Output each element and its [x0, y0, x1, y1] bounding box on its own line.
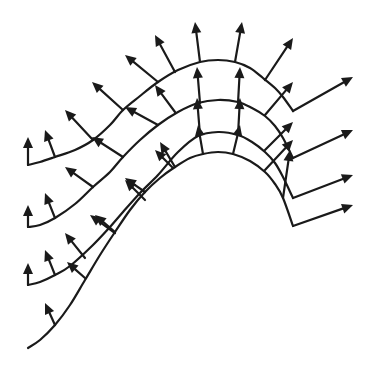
arrowhead-icon: [191, 22, 201, 34]
arrow-shaft: [233, 136, 237, 154]
arrow-shaft: [101, 143, 123, 157]
arrowhead-icon: [235, 22, 245, 34]
normal-vector: [233, 125, 243, 154]
arrow-shaft: [49, 260, 55, 275]
arrow-shaft: [235, 33, 240, 62]
normal-vector: [23, 205, 33, 227]
arrow-shaft: [265, 90, 286, 115]
curves-group: [28, 60, 293, 348]
normal-vector: [155, 35, 175, 72]
arrowhead-icon: [234, 67, 244, 78]
curve-4-exit-arrow: [293, 204, 353, 226]
normal-vectors-group: [23, 22, 353, 325]
normal-vector: [191, 22, 201, 62]
arrowhead-icon: [283, 38, 293, 50]
diagram-canvas: [0, 0, 374, 372]
arrow-shaft: [198, 78, 200, 103]
arrow-shaft: [50, 313, 55, 325]
normal-vector: [45, 303, 55, 325]
normal-vector: [195, 125, 205, 154]
arrowhead-icon: [65, 167, 77, 178]
arrow-shaft: [293, 209, 343, 226]
arrow-shaft: [72, 242, 85, 258]
arrow-shaft: [265, 47, 287, 80]
normal-vector: [65, 110, 93, 140]
curve-4: [28, 152, 293, 348]
arrowhead-icon: [193, 67, 203, 78]
arrowhead-icon: [155, 85, 166, 97]
curve-2-exit-arrow: [293, 130, 353, 158]
normal-vector: [234, 67, 244, 103]
arrow-shaft: [196, 33, 200, 62]
arrow-shaft: [293, 179, 343, 198]
normal-vector: [92, 82, 123, 110]
arrow-shaft: [293, 135, 343, 158]
normal-vector: [125, 55, 158, 82]
arrow-shaft: [265, 130, 285, 150]
arrowhead-icon: [341, 204, 353, 214]
arrow-shaft: [49, 140, 55, 157]
arrow-shaft: [100, 89, 123, 110]
normal-vector: [44, 250, 55, 275]
normal-vector: [65, 167, 93, 187]
normal-vector: [125, 107, 158, 125]
normal-vector: [44, 130, 55, 157]
arrow-shaft: [135, 112, 158, 125]
normal-vector: [92, 137, 123, 157]
arrow-shaft: [162, 94, 175, 112]
arrow-shaft: [265, 148, 285, 170]
arrow-shaft: [293, 82, 343, 111]
normal-vector: [283, 150, 293, 198]
arrowhead-icon: [23, 137, 33, 148]
arrow-shaft: [75, 269, 85, 278]
normal-vector: [67, 262, 85, 278]
curve-1-exit-arrow: [293, 77, 353, 111]
arrow-shaft: [73, 118, 93, 140]
arrow-shaft: [134, 62, 158, 82]
arrow-shaft: [238, 78, 239, 103]
arrowhead-icon: [23, 263, 33, 274]
arrowhead-icon: [23, 205, 33, 216]
normal-vector: [23, 137, 33, 165]
arrow-shaft: [200, 136, 203, 154]
arrow-shaft: [74, 173, 93, 187]
arrow-shaft: [160, 45, 175, 72]
normal-vector: [235, 22, 245, 62]
arrow-shaft: [49, 203, 55, 218]
arrowhead-icon: [44, 130, 53, 142]
curve-3-exit-arrow: [293, 174, 353, 198]
normal-vector: [265, 38, 293, 80]
normal-vector: [23, 263, 33, 285]
normal-vector: [193, 67, 203, 103]
arrowhead-icon: [92, 137, 104, 147]
normal-vector: [265, 82, 293, 115]
normal-vector: [65, 233, 85, 258]
arrowhead-icon: [341, 174, 353, 183]
normal-vector: [155, 85, 175, 112]
normal-vector: [44, 193, 55, 218]
